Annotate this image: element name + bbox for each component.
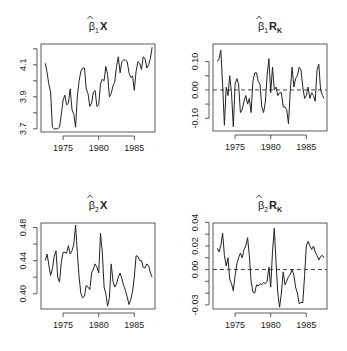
panel-title: β1RK [258, 20, 282, 34]
x-tick-label: 1975 [53, 320, 73, 330]
y-tick-label: 3.9 [18, 91, 28, 104]
x-tick-label: 1980 [261, 320, 281, 330]
y-tick-label: 4.1 [18, 59, 28, 72]
x-tick-label: 1980 [89, 143, 109, 153]
y-tick-label: -0.10 [190, 108, 200, 129]
x-tick-label: 1985 [124, 143, 144, 153]
y-tick-label: 0.00 [190, 81, 200, 99]
y-tick-label: 0.44 [18, 252, 28, 270]
y-tick-label: 0.40 [18, 285, 28, 303]
panel-beta1-x: β1X1975198019853.73.94.1 [18, 16, 155, 153]
panel-beta1-rk: β1RK197519801985-0.100.000.10 [190, 16, 327, 152]
figure: β1X1975198019853.73.94.1 β1RK19751980198… [0, 0, 347, 351]
panel-title: β1X [89, 20, 108, 34]
hat-accent-icon [257, 16, 262, 19]
hat-accent-icon [88, 16, 93, 19]
plot-frame [41, 44, 155, 132]
y-tick-label: -0.03 [190, 295, 200, 316]
x-tick-label: 1985 [296, 142, 316, 152]
x-tick-label: 1985 [124, 320, 144, 330]
hat-accent-icon [88, 195, 93, 198]
series-line [217, 228, 324, 307]
x-tick-label: 1975 [53, 143, 73, 153]
y-tick-label: 0.02 [190, 237, 200, 255]
x-tick-label: 1985 [296, 320, 316, 330]
series-line [45, 47, 152, 129]
plot-frame [41, 223, 155, 309]
x-tick-label: 1980 [89, 320, 109, 330]
y-tick-label: 0.10 [190, 53, 200, 71]
hat-accent-icon [257, 195, 262, 198]
x-tick-label: 1975 [225, 142, 245, 152]
series-line [45, 225, 152, 306]
panel-title: β2RK [258, 199, 282, 213]
chart-grid: β1X1975198019853.73.94.1 β1RK19751980198… [0, 0, 347, 351]
x-tick-label: 1975 [225, 320, 245, 330]
panel-beta2-x: β2X1975198019850.400.440.48 [18, 195, 155, 330]
series-line [217, 50, 324, 127]
y-tick-label: 0.48 [18, 219, 28, 237]
y-tick-label: 0.00 [190, 261, 200, 279]
panel-beta2-rk: β2RK197519801985-0.030.000.020.04 [190, 195, 327, 330]
x-tick-label: 1980 [261, 142, 281, 152]
y-tick-label: 0.04 [190, 214, 200, 232]
y-tick-label: 3.7 [18, 123, 28, 136]
plot-frame [213, 223, 327, 309]
panel-title: β2X [89, 199, 108, 213]
